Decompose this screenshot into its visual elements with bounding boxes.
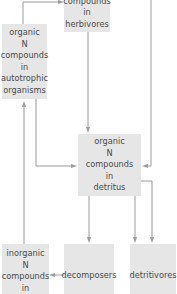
node-text: inorganic — [7, 248, 45, 260]
node-text: detritus — [94, 182, 126, 194]
node-inorganic: inorganic N compounds in — [2, 244, 49, 294]
node-text: in — [22, 283, 29, 294]
node-text: organic — [9, 27, 39, 39]
node-herbivores: compounds in herbivores — [64, 0, 110, 32]
node-text: in — [83, 7, 90, 19]
node-text: autotrophic — [1, 73, 48, 85]
edge-detritus-detritivores-b — [141, 181, 152, 238]
node-text: organic — [94, 136, 124, 148]
node-text: decomposers — [62, 270, 117, 282]
node-text: compounds — [1, 50, 49, 62]
node-text: in — [106, 171, 113, 183]
node-text: N — [21, 39, 27, 51]
node-decomposers: decomposers — [64, 244, 114, 294]
edge-autotrophic-detritus — [36, 99, 73, 166]
node-text: herbivores — [65, 19, 108, 31]
node-text: compounds — [86, 159, 134, 171]
node-text: in — [21, 62, 28, 74]
node-detritivores: detritivores — [130, 244, 176, 294]
edge-autotrophic-herbivores — [23, 2, 60, 24]
node-detritus: organic N compounds in detritus — [78, 134, 141, 196]
node-text: compounds — [63, 0, 111, 7]
node-text: detritivores — [130, 270, 177, 282]
node-text: N — [106, 148, 112, 160]
node-text: compounds — [2, 271, 50, 283]
node-text: N — [22, 260, 28, 272]
node-text: organisms — [3, 85, 45, 97]
node-autotrophic-organisms: organic N compounds in autotrophic organ… — [2, 24, 47, 99]
edge-top-right-detritus — [147, 0, 151, 166]
